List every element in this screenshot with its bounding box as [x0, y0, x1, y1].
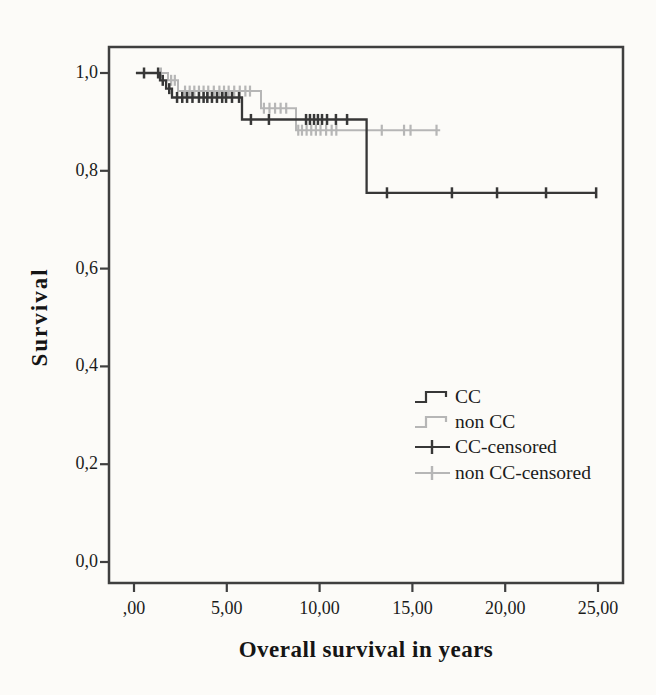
x-tick-label: 10,00	[299, 598, 340, 619]
legend-label: non CC-censored	[455, 462, 591, 484]
y-axis-title: Survival	[27, 267, 53, 366]
legend-label: CC-censored	[455, 436, 557, 458]
censor-marks-CC	[144, 68, 596, 199]
x-tick-label: 20,00	[485, 598, 526, 619]
legend-entry-non-cc-censored: non CC-censored	[413, 460, 591, 485]
legend: CC non CC CC-censored non CC-censored	[413, 384, 591, 485]
censor-mark-icon	[413, 464, 453, 482]
y-tick-label: 0,6	[50, 257, 98, 278]
y-tick-label: 0,0	[50, 551, 98, 572]
legend-entry-non-cc: non CC	[413, 409, 591, 434]
x-tick-label: 15,00	[392, 598, 433, 619]
survival-plot-canvas	[0, 0, 656, 695]
y-tick-label: 0,2	[50, 453, 98, 474]
censor-mark-icon	[413, 438, 453, 456]
legend-entry-cc-censored: CC-censored	[413, 435, 591, 460]
x-tick-label: ,00	[123, 598, 146, 619]
x-tick-label: 5,00	[211, 598, 243, 619]
censor-marks-non-CC	[161, 68, 437, 136]
y-tick-label: 0,8	[50, 159, 98, 180]
x-tick-label: 25,00	[578, 598, 619, 619]
legend-label: CC	[455, 386, 481, 408]
step-line-icon	[413, 413, 453, 431]
y-tick-label: 1,0	[50, 62, 98, 83]
x-axis-title: Overall survival in years	[239, 637, 494, 663]
step-line-icon	[413, 388, 453, 406]
legend-label: non CC	[455, 411, 515, 433]
legend-entry-cc: CC	[413, 384, 591, 409]
y-tick-label: 0,4	[50, 355, 98, 376]
kaplan-meier-survival-figure: 0,00,20,40,60,81,0 ,005,0010,0015,0020,0…	[0, 0, 656, 695]
